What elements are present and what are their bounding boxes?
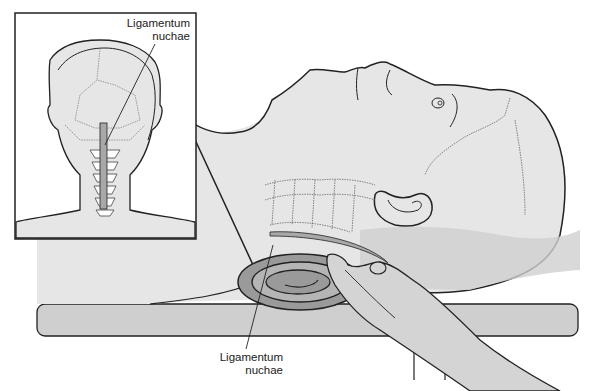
neck-support-illustration xyxy=(0,0,590,391)
main-label-line1: Ligamentum xyxy=(205,351,283,364)
inset-label-line1: Ligamentum xyxy=(120,17,190,30)
main-ligamentum-nuchae-label: Ligamentum nuchae xyxy=(205,351,283,377)
main-label-line2: nuchae xyxy=(205,364,283,377)
inset-label-line2: nuchae xyxy=(120,30,190,43)
inset-ligamentum-nuchae-label: Ligamentum nuchae xyxy=(120,17,190,43)
inset-posterior-view xyxy=(15,13,196,239)
